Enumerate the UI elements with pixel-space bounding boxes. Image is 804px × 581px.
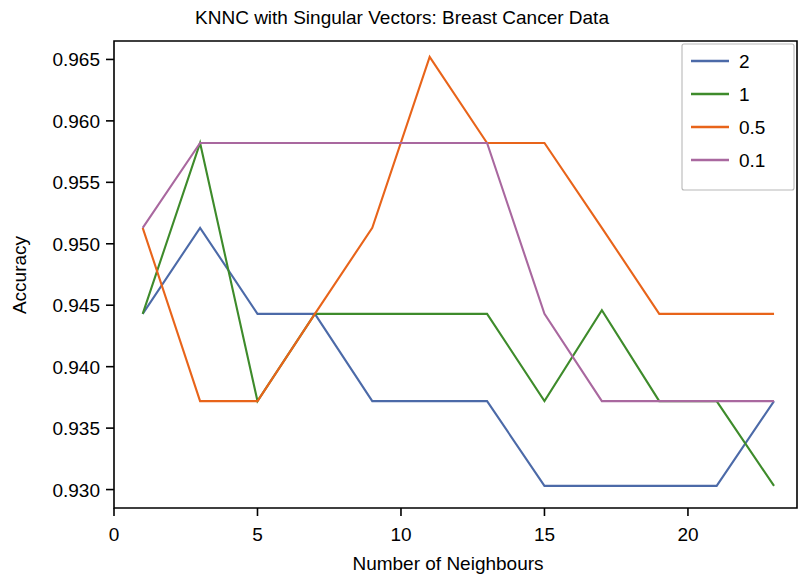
- x-tick-label: 15: [534, 524, 555, 545]
- x-axis-label: Number of Neighbours: [352, 553, 543, 574]
- series-lines: [143, 57, 774, 486]
- line-chart: KNNC with Singular Vectors: Breast Cance…: [0, 0, 804, 581]
- legend-label-0.5: 0.5: [739, 117, 765, 138]
- x-tick-label: 20: [677, 524, 698, 545]
- legend-label-0.1: 0.1: [739, 150, 765, 171]
- y-tick-label: 0.960: [52, 111, 100, 132]
- chart-legend: 210.50.1: [682, 44, 794, 190]
- legend-background: [682, 44, 794, 190]
- y-tick-label: 0.955: [52, 172, 100, 193]
- x-tick-label: 0: [109, 524, 120, 545]
- y-tick-label: 0.950: [52, 234, 100, 255]
- x-axis-ticks: 05101520: [109, 508, 699, 545]
- x-tick-label: 10: [390, 524, 411, 545]
- y-tick-label: 0.940: [52, 357, 100, 378]
- legend-label-2: 2: [739, 51, 750, 72]
- y-tick-label: 0.930: [52, 480, 100, 501]
- series-line-0.1: [143, 143, 774, 401]
- y-axis-label: Accuracy: [9, 235, 30, 314]
- y-axis-ticks: 0.9300.9350.9400.9450.9500.9550.9600.965: [52, 49, 114, 500]
- legend-label-1: 1: [739, 84, 750, 105]
- x-tick-label: 5: [252, 524, 263, 545]
- y-tick-label: 0.935: [52, 418, 100, 439]
- series-line-2: [143, 228, 774, 486]
- series-line-0.5: [143, 57, 774, 401]
- y-tick-label: 0.945: [52, 295, 100, 316]
- chart-title: KNNC with Singular Vectors: Breast Cance…: [195, 7, 609, 28]
- figure-canvas: KNNC with Singular Vectors: Breast Cance…: [0, 0, 804, 581]
- y-tick-label: 0.965: [52, 49, 100, 70]
